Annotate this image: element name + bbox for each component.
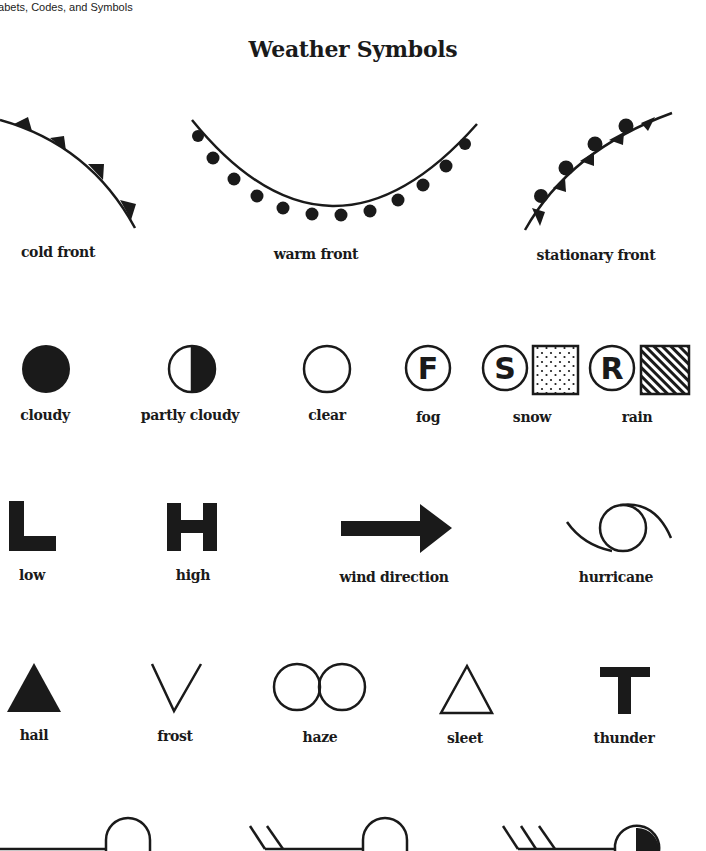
page-title: Weather Symbols [0,36,706,62]
label-hurricane: hurricane [579,569,653,585]
half-filled-circle-icon [169,346,215,392]
circled-s-dotted-square-icon: S [483,346,578,394]
running-header: habets, Codes, and Symbols [0,1,133,13]
letter-t-icon [600,667,650,714]
label-haze: haze [303,729,338,745]
letter-l-icon [9,501,56,551]
label-cold-front: cold front [21,244,95,260]
double-circle-icon [274,664,365,710]
svg-text:S: S [494,351,516,386]
label-low: low [19,567,45,583]
letter-h-icon [167,503,217,551]
label-partly-cloudy: partly cloudy [141,407,239,423]
filled-circle-icon [22,345,70,393]
warm-front-icon [192,120,477,222]
wind-barb-three-feathers-partly-cloudy-icon [503,826,659,851]
label-snow: snow [513,409,551,425]
label-hail: hail [20,727,49,743]
stationary-front-icon [525,113,672,230]
hurricane-icon [567,504,671,551]
label-warm-front: warm front [274,246,359,262]
label-high: high [176,567,210,583]
cold-front-icon [0,117,136,228]
empty-circle-icon [304,346,350,392]
outline-triangle-icon [441,666,492,713]
label-cloudy: cloudy [20,407,69,423]
svg-text:R: R [600,351,623,386]
label-stationary-front: stationary front [537,247,656,263]
circled-r-hatched-square-icon: R [590,346,689,394]
label-frost: frost [157,728,193,744]
label-thunder: thunder [594,730,655,746]
label-sleet: sleet [447,730,483,746]
circled-f-icon: F [406,346,450,390]
wind-barb-no-feathers-icon [0,818,150,851]
label-clear: clear [308,407,346,423]
label-fog: fog [416,409,440,425]
label-rain: rain [622,409,653,425]
label-wind-direction: wind direction [339,569,448,585]
svg-text:F: F [418,351,439,386]
filled-triangle-icon [7,663,61,712]
wind-barb-two-feathers-icon [250,818,407,851]
arrow-right-icon [341,504,452,553]
v-shape-icon [152,664,201,711]
